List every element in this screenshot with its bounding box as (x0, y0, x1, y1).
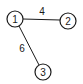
node-label-2: 2 (65, 16, 71, 27)
node-label-1: 1 (12, 14, 18, 25)
node-2: 2 (60, 13, 76, 29)
node-1: 1 (7, 11, 23, 27)
node-label-3: 3 (40, 67, 46, 78)
edge-weight-1-2: 4 (39, 6, 45, 17)
graph-canvas: 4 6 1 2 3 (0, 0, 83, 84)
edge-1-3: 6 (19, 26, 39, 65)
node-3: 3 (35, 64, 51, 80)
edge-1-2: 4 (23, 6, 60, 20)
edge-weight-1-3: 6 (19, 43, 25, 54)
